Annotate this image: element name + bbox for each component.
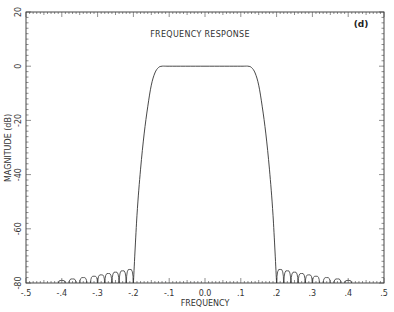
panel-label: (d) (354, 19, 369, 29)
axis-ticks (26, 12, 384, 283)
x-tick-label: -.5 (21, 289, 32, 298)
x-tick-label: .5 (380, 289, 388, 298)
y-tick-label: -40 (14, 168, 23, 181)
y-axis-label: MAGNITUDE (dB) (4, 114, 13, 182)
x-tick-label: .4 (344, 289, 352, 298)
y-tick-label: -20 (14, 114, 23, 127)
x-tick-label: .3 (309, 289, 317, 298)
x-tick-label: .1 (237, 289, 245, 298)
frequency-response-chart: 200-20-40-60-80 -.5-.4-.3-.2-.10.0.1.2.3… (0, 0, 394, 312)
chart-title: FREQUENCY RESPONSE (150, 30, 250, 39)
y-tick-label: 20 (14, 7, 23, 17)
magnitude-curve (133, 66, 276, 283)
y-tick-label: -80 (14, 276, 23, 289)
y-tick-label: 0 (14, 64, 23, 69)
x-tick-label: 0.0 (199, 289, 212, 298)
x-tick-label: -.1 (164, 289, 175, 298)
x-tick-label: .2 (273, 289, 281, 298)
x-axis-label: FREQUENCY (181, 299, 230, 308)
x-tick-label: -.3 (92, 289, 103, 298)
plot-frame (26, 12, 384, 283)
y-tick-label: -60 (14, 222, 23, 235)
x-tick-label: -.4 (57, 289, 68, 298)
y-tick-labels: 200-20-40-60-80 (14, 7, 23, 290)
x-tick-label: -.2 (128, 289, 139, 298)
x-tick-labels: -.5-.4-.3-.2-.10.0.1.2.3.4.5 (21, 289, 388, 298)
